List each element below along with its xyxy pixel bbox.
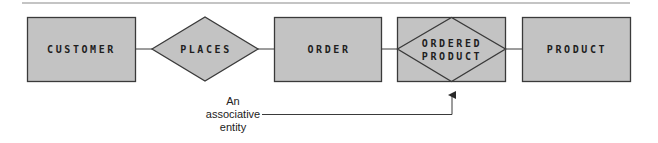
entity-customer-label: CUSTOMER <box>47 44 116 55</box>
entity-customer[interactable]: CUSTOMER <box>28 18 136 82</box>
annotation-arrow <box>262 95 452 115</box>
annotation-associative-entity: An associative entity <box>206 95 260 133</box>
associative-entity-ordered-product[interactable]: ORDERED PRODUCT <box>398 18 506 82</box>
entity-order[interactable]: ORDER <box>275 18 382 82</box>
er-diagram: CUSTOMER PLACES ORDER ORDERED PRODUCT PR… <box>0 0 658 143</box>
entity-product[interactable]: PRODUCT <box>523 18 631 82</box>
relationship-places-label: PLACES <box>180 44 232 55</box>
annotation-line2: associative <box>206 108 260 120</box>
associative-entity-label-line1: ORDERED <box>422 38 482 49</box>
annotation-line1: An <box>226 95 239 107</box>
relationship-places[interactable]: PLACES <box>152 17 258 81</box>
annotation-line3: entity <box>220 121 247 133</box>
entity-product-label: PRODUCT <box>547 44 607 55</box>
entity-order-label: ORDER <box>307 44 350 55</box>
associative-entity-label-line2: PRODUCT <box>422 51 482 62</box>
